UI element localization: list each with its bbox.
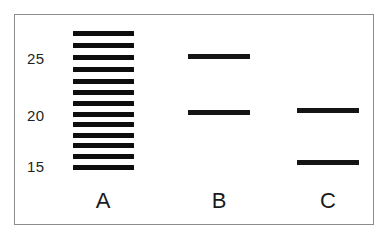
lane-label-c: C (308, 190, 348, 212)
gel-electrophoresis-figure: 25 20 15 A B (0, 0, 390, 241)
lane-labels: A B C (0, 0, 390, 241)
lane-label-b: B (199, 190, 239, 212)
lane-label-a: A (83, 190, 123, 212)
